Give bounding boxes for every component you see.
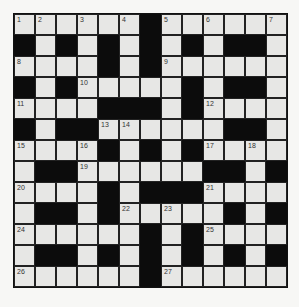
crossword-cell[interactable]	[161, 77, 182, 98]
crossword-cell[interactable]	[203, 203, 224, 224]
crossword-cell[interactable]	[224, 140, 245, 161]
crossword-cell[interactable]	[119, 56, 140, 77]
crossword-cell[interactable]	[56, 14, 77, 35]
crossword-cell[interactable]	[203, 119, 224, 140]
crossword-cell[interactable]	[77, 98, 98, 119]
crossword-cell[interactable]	[245, 14, 266, 35]
crossword-cell[interactable]: 11	[14, 98, 35, 119]
crossword-cell[interactable]	[224, 224, 245, 245]
crossword-cell[interactable]	[224, 98, 245, 119]
crossword-cell[interactable]	[119, 224, 140, 245]
crossword-cell[interactable]	[182, 119, 203, 140]
crossword-cell[interactable]: 18	[245, 140, 266, 161]
crossword-cell[interactable]	[98, 77, 119, 98]
crossword-cell[interactable]	[266, 266, 287, 287]
crossword-cell[interactable]	[14, 203, 35, 224]
crossword-cell[interactable]	[266, 224, 287, 245]
crossword-cell[interactable]: 7	[266, 14, 287, 35]
crossword-cell[interactable]	[203, 266, 224, 287]
crossword-cell[interactable]	[182, 161, 203, 182]
crossword-cell[interactable]	[35, 266, 56, 287]
crossword-cell[interactable]	[266, 140, 287, 161]
crossword-cell[interactable]: 16	[77, 140, 98, 161]
crossword-cell[interactable]	[161, 35, 182, 56]
crossword-cell[interactable]	[119, 245, 140, 266]
crossword-cell[interactable]	[182, 266, 203, 287]
crossword-cell[interactable]	[140, 77, 161, 98]
crossword-cell[interactable]: 8	[14, 56, 35, 77]
crossword-cell[interactable]	[77, 224, 98, 245]
crossword-cell[interactable]	[245, 266, 266, 287]
crossword-cell[interactable]	[161, 140, 182, 161]
crossword-cell[interactable]	[77, 203, 98, 224]
crossword-cell[interactable]	[140, 161, 161, 182]
crossword-cell[interactable]: 6	[203, 14, 224, 35]
crossword-cell[interactable]	[35, 35, 56, 56]
crossword-cell[interactable]: 25	[203, 224, 224, 245]
crossword-cell[interactable]	[266, 77, 287, 98]
crossword-cell[interactable]: 3	[77, 14, 98, 35]
crossword-cell[interactable]: 15	[14, 140, 35, 161]
crossword-cell[interactable]	[77, 182, 98, 203]
crossword-cell[interactable]	[77, 56, 98, 77]
crossword-cell[interactable]	[266, 35, 287, 56]
crossword-cell[interactable]: 4	[119, 14, 140, 35]
crossword-cell[interactable]	[182, 14, 203, 35]
crossword-cell[interactable]	[203, 35, 224, 56]
crossword-cell[interactable]	[161, 161, 182, 182]
crossword-cell[interactable]	[35, 98, 56, 119]
crossword-cell[interactable]	[119, 35, 140, 56]
crossword-cell[interactable]	[14, 161, 35, 182]
crossword-cell[interactable]: 19	[77, 161, 98, 182]
crossword-cell[interactable]	[140, 203, 161, 224]
crossword-cell[interactable]	[56, 56, 77, 77]
crossword-cell[interactable]	[98, 266, 119, 287]
crossword-cell[interactable]	[266, 182, 287, 203]
crossword-cell[interactable]	[203, 245, 224, 266]
crossword-cell[interactable]	[119, 161, 140, 182]
crossword-cell[interactable]	[245, 224, 266, 245]
crossword-cell[interactable]: 26	[14, 266, 35, 287]
crossword-cell[interactable]	[56, 266, 77, 287]
crossword-cell[interactable]	[224, 266, 245, 287]
crossword-cell[interactable]	[56, 98, 77, 119]
crossword-cell[interactable]	[245, 56, 266, 77]
crossword-cell[interactable]	[224, 56, 245, 77]
crossword-cell[interactable]: 23	[161, 203, 182, 224]
crossword-cell[interactable]	[77, 35, 98, 56]
crossword-cell[interactable]	[119, 77, 140, 98]
crossword-cell[interactable]: 22	[119, 203, 140, 224]
crossword-cell[interactable]	[56, 224, 77, 245]
crossword-cell[interactable]: 5	[161, 14, 182, 35]
crossword-cell[interactable]	[224, 14, 245, 35]
crossword-cell[interactable]: 27	[161, 266, 182, 287]
crossword-cell[interactable]	[182, 203, 203, 224]
crossword-cell[interactable]	[77, 266, 98, 287]
crossword-cell[interactable]: 2	[35, 14, 56, 35]
crossword-cell[interactable]	[56, 140, 77, 161]
crossword-cell[interactable]	[266, 98, 287, 119]
crossword-cell[interactable]	[266, 56, 287, 77]
crossword-cell[interactable]	[161, 245, 182, 266]
crossword-cell[interactable]	[224, 182, 245, 203]
crossword-cell[interactable]	[119, 182, 140, 203]
crossword-cell[interactable]	[161, 224, 182, 245]
crossword-cell[interactable]: 20	[14, 182, 35, 203]
crossword-cell[interactable]	[161, 98, 182, 119]
crossword-cell[interactable]	[182, 56, 203, 77]
crossword-cell[interactable]	[266, 119, 287, 140]
crossword-cell[interactable]: 14	[119, 119, 140, 140]
crossword-cell[interactable]: 17	[203, 140, 224, 161]
crossword-cell[interactable]	[98, 224, 119, 245]
crossword-cell[interactable]	[119, 140, 140, 161]
crossword-cell[interactable]	[203, 56, 224, 77]
crossword-cell[interactable]: 1	[14, 14, 35, 35]
crossword-cell[interactable]: 12	[203, 98, 224, 119]
crossword-cell[interactable]	[245, 161, 266, 182]
crossword-cell[interactable]: 10	[77, 77, 98, 98]
crossword-cell[interactable]	[245, 98, 266, 119]
crossword-cell[interactable]	[35, 77, 56, 98]
crossword-cell[interactable]	[77, 245, 98, 266]
crossword-cell[interactable]	[35, 119, 56, 140]
crossword-cell[interactable]	[98, 161, 119, 182]
